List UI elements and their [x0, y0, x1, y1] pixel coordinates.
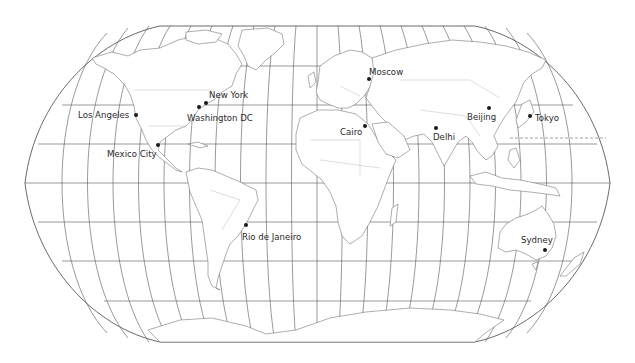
world-map: Los Angeles New York Washington DC Mexic…	[0, 0, 635, 363]
city-label: Los Angeles	[78, 110, 130, 120]
city-label: New York	[209, 90, 248, 100]
city-marker-dot	[367, 77, 371, 81]
city-label: Washington DC	[187, 113, 253, 123]
city-label: Moscow	[369, 67, 403, 77]
city-marker-dot	[134, 113, 138, 117]
city-label: Mexico City	[107, 149, 157, 159]
city-marker-dot	[363, 124, 367, 128]
city-label: Rio de Janeiro	[242, 232, 301, 242]
city-marker-dot	[197, 105, 201, 109]
city-marker-dot	[244, 223, 248, 227]
city-marker-dot	[156, 143, 160, 147]
city-marker-dot	[487, 106, 491, 110]
city-marker-dot	[543, 248, 547, 252]
city-marker-dot	[434, 126, 438, 130]
city-marker-dot	[528, 114, 532, 118]
city-label: Delhi	[433, 132, 455, 142]
city-marker-dot	[204, 101, 208, 105]
city-label: Sydney	[521, 235, 553, 245]
city-los-angeles[interactable]: Los Angeles	[78, 110, 138, 120]
city-label: Beijing	[467, 112, 496, 122]
city-label: Tokyo	[534, 113, 559, 123]
city-label: Cairo	[340, 127, 362, 137]
